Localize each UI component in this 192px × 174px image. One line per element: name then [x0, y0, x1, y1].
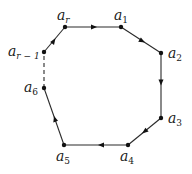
node-ar1: [42, 50, 46, 54]
node-a3: [159, 116, 163, 120]
label-ar1: ar − 1: [8, 43, 40, 61]
node-a1: [119, 25, 123, 29]
node-a6: [42, 86, 46, 90]
label-a4: a4: [120, 148, 134, 166]
node-a2: [159, 51, 163, 55]
label-a3: a3: [168, 110, 182, 128]
label-a5: a5: [56, 148, 70, 166]
label-a6: a6: [24, 79, 38, 97]
node-a5: [62, 143, 66, 147]
cycle-diagram: ar a1 a2 a3 a4 a5 a6 ar − 1: [0, 0, 192, 174]
arrow-icon: [98, 143, 104, 148]
node-ar: [63, 25, 67, 29]
label-ar: ar: [57, 7, 70, 25]
label-a2: a2: [168, 45, 182, 63]
arrow-icon: [53, 116, 58, 123]
label-a1: a1: [114, 7, 128, 25]
arrow-icon: [159, 80, 164, 86]
node-a4: [126, 143, 130, 147]
arrow-icon: [91, 25, 97, 30]
